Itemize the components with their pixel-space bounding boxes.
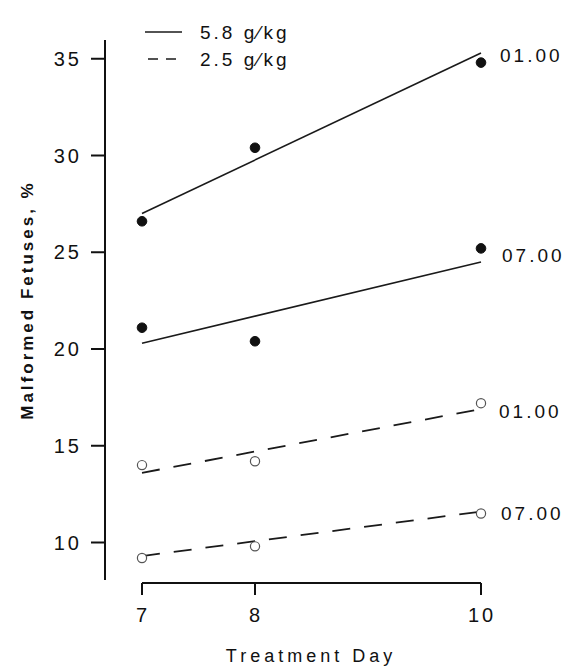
- y-tick-label: 10: [54, 532, 82, 554]
- series-2: [137, 399, 485, 473]
- series-1: [137, 244, 486, 346]
- fit-line: [142, 53, 481, 214]
- open-circle-marker: [250, 457, 259, 466]
- x-axis-ticks: 7810: [136, 583, 496, 626]
- y-tick-label: 35: [54, 48, 82, 70]
- fit-line: [142, 409, 481, 473]
- legend: 5.8 g∕kg 2.5 g∕kg: [145, 22, 290, 70]
- legend-label-solid: 5.8 g∕kg: [200, 22, 290, 43]
- y-tick-label: 20: [54, 338, 82, 360]
- open-circle-marker: [137, 461, 146, 470]
- chart: 101520253035 7810 Treatment Day Malforme…: [0, 0, 588, 670]
- y-axis-title: Malformed Fetuses, %: [18, 180, 37, 420]
- plot-area: [137, 53, 486, 563]
- series-3: [137, 509, 485, 563]
- legend-label-dashed: 2.5 g∕kg: [200, 49, 290, 70]
- y-axis-ticks: 101520253035: [54, 48, 105, 554]
- fit-line: [142, 512, 481, 557]
- series-label-2-5-0700: 07.00: [501, 503, 564, 524]
- y-tick-label: 15: [54, 435, 82, 457]
- filled-circle-marker: [476, 244, 486, 254]
- filled-circle-marker: [137, 323, 147, 333]
- fit-line: [142, 262, 481, 343]
- filled-circle-marker: [137, 216, 147, 226]
- series-label-5-8-0100: 01.00: [500, 45, 563, 66]
- x-tick-label: 8: [249, 604, 263, 626]
- open-circle-marker: [476, 509, 485, 518]
- open-circle-marker: [250, 542, 259, 551]
- x-axis-title: Treatment Day: [226, 646, 396, 666]
- series-label-2-5-0100: 01.00: [499, 401, 562, 422]
- filled-circle-marker: [250, 143, 260, 153]
- series-label-5-8-0700: 07.00: [502, 245, 565, 266]
- open-circle-marker: [137, 553, 146, 562]
- x-tick-label: 7: [136, 604, 150, 626]
- x-tick-label: 10: [468, 604, 496, 626]
- y-tick-label: 25: [54, 241, 82, 263]
- filled-circle-marker: [250, 336, 260, 346]
- series-0: [137, 53, 486, 226]
- open-circle-marker: [476, 399, 485, 408]
- y-tick-label: 30: [54, 145, 82, 167]
- filled-circle-marker: [476, 58, 486, 68]
